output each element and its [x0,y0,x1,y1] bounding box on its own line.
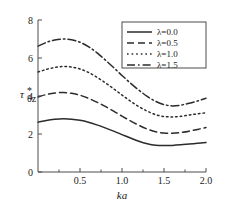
legend-label-2: λ=1.0 [157,49,178,59]
y-tick-label: 2 [28,129,33,140]
legend: λ=0.0λ=0.5λ=1.0λ=1.5 [122,22,206,70]
x-tick-label: 1.5 [158,175,171,186]
x-tick-label: 1.0 [116,175,129,186]
legend-label-0: λ=0.0 [157,27,178,37]
x-axis-label: ka [117,189,128,201]
y-tick-label: 0 [28,167,33,178]
chart-figure: 02468 0.51.01.52.0 ka τ * θz λ=0.0λ=0.5λ… [0,0,246,211]
y-tick-label: 6 [28,53,33,64]
legend-label-3: λ=1.5 [157,60,178,70]
y-axis-label-subscript: θz [27,93,37,104]
x-tick-label: 2.0 [200,175,213,186]
x-tick-label: 0.5 [74,175,87,186]
y-tick-label: 8 [28,15,33,26]
legend-label-1: λ=0.5 [157,38,178,48]
